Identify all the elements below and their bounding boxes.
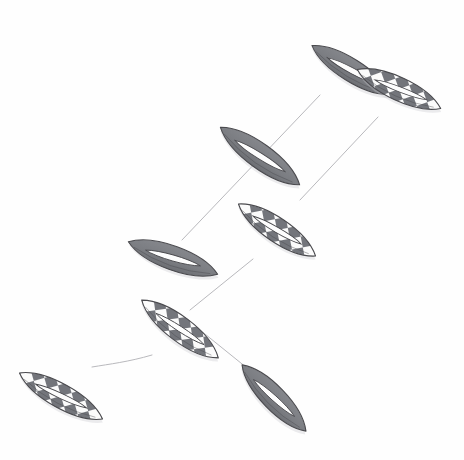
thread-center-to-lower-left-curve: [92, 355, 152, 367]
middle-left-solid-hull: [123, 230, 223, 289]
artwork-canvas: [0, 0, 464, 460]
drawing-surface: [0, 0, 464, 460]
lower-right-solid-hull: [232, 357, 316, 443]
center-checkered-hull: [132, 290, 227, 371]
upper-middle-solid-hull: [211, 117, 308, 198]
thread-checkered-chain-upper: [300, 117, 378, 200]
middle-right-checkered-hull: [230, 194, 324, 270]
hull-shapes-layer: [12, 36, 447, 443]
lower-left-checkered-hull: [12, 362, 110, 433]
